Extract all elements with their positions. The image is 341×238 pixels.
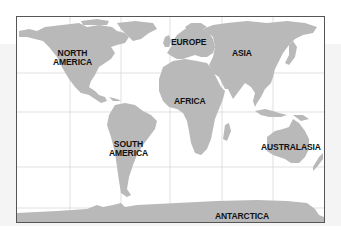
land-new-guinea: [293, 115, 309, 121]
land-new-zealand: [313, 153, 323, 171]
world-map: NORTH AMERICA EUROPE ASIA AFRICA SOUTH A…: [16, 16, 325, 223]
label-africa: AFRICA: [174, 97, 206, 106]
label-europe: EUROPE: [171, 38, 206, 47]
land-cuba: [109, 97, 121, 101]
land-canada-islands: [81, 19, 109, 25]
label-asia: ASIA: [232, 49, 252, 58]
label-antarctica: ANTARCTICA: [215, 212, 269, 221]
land-antarctica: [17, 200, 324, 222]
label-north-america: NORTH AMERICA: [53, 49, 92, 66]
label-australasia: AUSTRALASIA: [261, 143, 321, 152]
land-indonesia: [255, 109, 287, 117]
land-madagascar: [223, 123, 231, 141]
label-south-america: SOUTH AMERICA: [109, 140, 148, 157]
